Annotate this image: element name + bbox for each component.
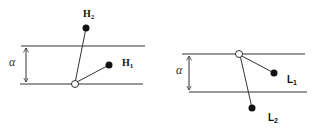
h1-atom-dot	[106, 62, 113, 69]
bond-l1	[240, 55, 274, 73]
origin-open-circle	[72, 81, 79, 88]
right-diagram: α L1 L2	[176, 51, 307, 125]
h2-label: H2	[83, 8, 95, 21]
bond-h2	[75, 28, 86, 83]
l1-atom-dot	[271, 70, 278, 77]
l2-label: L2	[268, 112, 278, 124]
origin-open-circle	[236, 51, 243, 58]
h1-label: H1	[122, 57, 134, 70]
left-diagram: α H2 H1	[9, 8, 145, 88]
alpha-label: α	[9, 55, 16, 69]
bond-l2	[240, 55, 252, 108]
alpha-label: α	[176, 63, 183, 77]
l1-label: L1	[287, 74, 297, 86]
bond-h1	[75, 65, 109, 83]
diagram-canvas: α H2 H1 α L1 L2	[0, 0, 317, 131]
h2-atom-dot	[83, 25, 90, 32]
l2-atom-dot	[249, 105, 256, 112]
